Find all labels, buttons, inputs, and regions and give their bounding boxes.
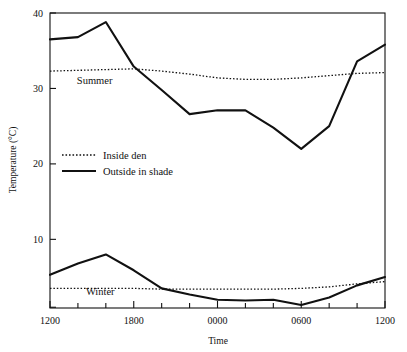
x-tick-label: 0000 <box>208 315 228 326</box>
temperature-time-line-chart: 10203040 12001800000006001200 SummerWint… <box>0 0 407 352</box>
x-tick-label: 1200 <box>375 315 395 326</box>
group-annotation-label: Summer <box>77 75 113 86</box>
axes-border <box>50 13 385 308</box>
plot-frame <box>50 13 385 308</box>
series-line <box>50 254 385 305</box>
legend-label-inside-den: Inside den <box>103 150 147 161</box>
y-tick-label: 20 <box>33 158 43 169</box>
y-axis-ticks: 10203040 <box>33 8 56 308</box>
chart-legend: Inside den Outside in shade <box>62 150 173 177</box>
y-tick-label: 40 <box>33 8 43 19</box>
x-axis-title: Time <box>208 336 228 346</box>
chart-figure: 10203040 12001800000006001200 SummerWint… <box>0 0 407 352</box>
x-axis-ticks: 12001800000006001200 <box>40 301 395 326</box>
group-annotation-label: Winter <box>86 286 115 297</box>
series-annotations: SummerWinter <box>77 75 115 297</box>
x-tick-label: 0600 <box>291 315 311 326</box>
x-tick-label: 1800 <box>124 315 144 326</box>
legend-label-outside-in-shade: Outside in shade <box>103 166 173 177</box>
x-tick-label: 1200 <box>40 315 60 326</box>
y-tick-label: 10 <box>33 234 43 245</box>
y-axis-title: Temperature (°C) <box>8 127 19 194</box>
data-series-group <box>50 22 385 305</box>
y-tick-label: 30 <box>33 83 43 94</box>
